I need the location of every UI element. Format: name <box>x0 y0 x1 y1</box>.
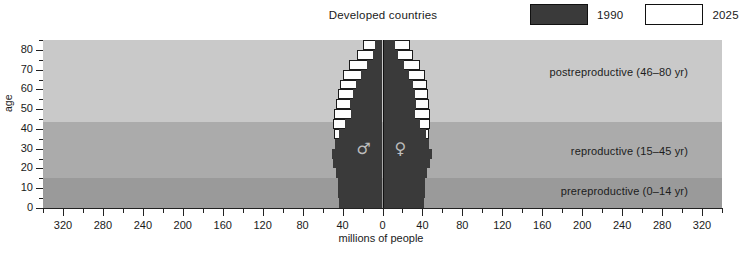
y-tick-label: 60 <box>7 82 33 94</box>
x-tick-label: 200 <box>562 219 602 231</box>
y-tick-label: 30 <box>7 142 33 154</box>
bar-row <box>383 89 429 99</box>
x-tick <box>183 208 184 216</box>
x-tick-label: 120 <box>243 219 283 231</box>
x-tick-label: 40 <box>323 219 363 231</box>
x-axis-title: millions of people <box>0 232 746 244</box>
bar-row <box>383 129 430 139</box>
x-tick <box>442 208 443 213</box>
x-tick <box>662 208 663 216</box>
bar-segment-1990 <box>345 119 383 129</box>
bar-segment-1990 <box>383 178 426 188</box>
bar-segment-1990 <box>383 109 416 119</box>
chart-title: Developed countries <box>0 9 746 21</box>
y-tick-label: 10 <box>7 181 33 193</box>
y-tick-label: 40 <box>7 122 33 134</box>
population-pyramid-chart: 1990 2025 Developed countries 0102030405… <box>0 0 746 260</box>
chart-title-text: Developed countries <box>329 9 438 21</box>
bar-segment-1990 <box>351 109 383 119</box>
bar-segment-1990 <box>383 89 416 99</box>
x-tick <box>462 208 463 216</box>
x-tick <box>642 208 643 213</box>
bar-row <box>383 188 426 198</box>
bar-segment-1990 <box>383 99 417 109</box>
x-tick <box>702 208 703 216</box>
bar-segment-1990 <box>383 168 428 178</box>
bar-segment-1990 <box>373 50 383 60</box>
y-tick-label: 70 <box>7 63 33 75</box>
male-symbol-icon: ♂ <box>357 141 371 157</box>
x-tick <box>263 208 264 216</box>
bar-row <box>383 70 426 80</box>
x-tick <box>303 208 304 216</box>
bar-row <box>357 50 383 60</box>
bar-row <box>343 70 383 80</box>
x-tick <box>143 208 144 216</box>
bar-row <box>339 198 383 208</box>
bar-row <box>383 149 433 159</box>
bar-segment-1990 <box>383 80 414 90</box>
x-tick-label: 80 <box>283 219 323 231</box>
x-tick <box>343 208 344 216</box>
bar-segment-1990 <box>353 89 383 99</box>
bar-row <box>383 168 428 178</box>
x-tick <box>83 208 84 213</box>
bar-row <box>383 159 431 169</box>
x-tick-label: 120 <box>482 219 522 231</box>
x-tick-label: 160 <box>522 219 562 231</box>
x-tick <box>682 208 683 213</box>
x-tick <box>63 208 64 216</box>
center-axis-line <box>383 40 384 208</box>
x-tick <box>203 208 204 213</box>
bar-row <box>340 80 383 90</box>
bar-segment-1990 <box>383 198 425 208</box>
x-tick-label: 200 <box>163 219 203 231</box>
x-tick-label: 0 <box>363 219 403 231</box>
y-tick-label: 80 <box>7 43 33 55</box>
y-tick-label: 0 <box>7 201 33 213</box>
bar-segment-1990 <box>383 70 410 80</box>
bar-row <box>363 40 383 50</box>
bar-row <box>333 119 383 129</box>
bar-row <box>334 129 383 139</box>
x-tick <box>502 208 503 216</box>
x-tick <box>163 208 164 213</box>
x-tick-label: 40 <box>402 219 442 231</box>
x-tick <box>123 208 124 213</box>
x-tick-label: 160 <box>203 219 243 231</box>
bar-segment-1990 <box>383 119 421 129</box>
bar-row <box>334 109 383 119</box>
x-tick <box>243 208 244 213</box>
bar-segment-1990 <box>338 178 383 188</box>
bar-row <box>338 188 383 198</box>
x-tick-label: 240 <box>602 219 642 231</box>
bar-segment-1990 <box>383 40 396 50</box>
bar-row <box>383 80 428 90</box>
x-axis-title-text: millions of people <box>339 232 424 244</box>
x-tick-label: 320 <box>43 219 83 231</box>
bar-segment-1990 <box>383 50 399 60</box>
x-tick-label: 280 <box>83 219 123 231</box>
bar-segment-1990 <box>339 129 383 139</box>
x-tick <box>103 208 104 216</box>
bar-row <box>349 60 383 70</box>
x-tick <box>542 208 543 216</box>
x-tick <box>482 208 483 213</box>
x-tick <box>602 208 603 213</box>
bar-row <box>383 119 431 129</box>
bar-row <box>338 178 383 188</box>
bar-row <box>333 159 383 169</box>
bar-segment-1990 <box>339 198 383 208</box>
x-tick <box>43 208 44 213</box>
bar-segment-1990 <box>383 129 427 139</box>
bar-row <box>383 109 431 119</box>
bar-row <box>383 50 414 60</box>
bar-segment-1990 <box>350 99 383 109</box>
x-tick-label: 320 <box>682 219 722 231</box>
bar-segment-1990 <box>383 159 431 169</box>
bar-row <box>383 99 430 109</box>
x-tick <box>582 208 583 216</box>
pyramid-bars <box>43 40 722 208</box>
x-tick <box>223 208 224 216</box>
bar-row <box>336 99 383 109</box>
